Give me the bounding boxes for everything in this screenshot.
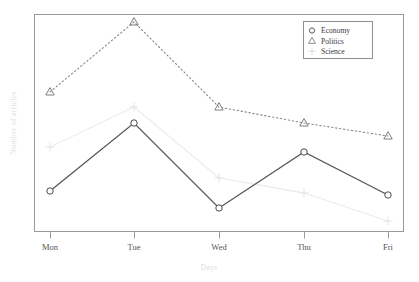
x-tick-label-tue: Tue — [128, 242, 141, 252]
x-tick-label-wed: Wed — [211, 242, 227, 252]
line-chart: Mon Tue Wed Thu Fri Days Number of artic… — [0, 0, 419, 282]
circle-marker-icon — [216, 205, 222, 211]
series-economy-markers — [47, 120, 391, 211]
legend-label-economy: Economy — [321, 26, 350, 35]
x-tick-label-mon: Mon — [42, 242, 59, 252]
circle-marker-icon — [301, 149, 307, 155]
circle-marker-icon — [131, 120, 137, 126]
legend: Economy Politics Science — [304, 22, 373, 59]
circle-marker-icon — [309, 28, 314, 33]
x-axis-tick-labels: Mon Tue Wed Thu Fri — [42, 242, 394, 252]
plus-marker-icon — [300, 189, 309, 198]
circle-marker-icon — [47, 188, 53, 194]
circle-marker-icon — [385, 192, 391, 198]
series-economy-line — [50, 123, 388, 208]
plus-marker-icon — [46, 143, 55, 152]
x-axis-title: Days — [200, 263, 217, 272]
series-science-line — [50, 107, 388, 221]
legend-label-politics: Politics — [321, 37, 344, 46]
triangle-marker-icon — [384, 132, 392, 139]
y-axis-title: Number of articles — [9, 91, 18, 155]
legend-label-science: Science — [321, 47, 345, 56]
x-axis-ticks — [51, 232, 389, 239]
x-tick-label-fri: Fri — [383, 242, 394, 252]
plus-marker-icon — [384, 217, 393, 226]
series-economy — [47, 120, 391, 211]
x-tick-label-thu: Thu — [297, 242, 311, 252]
